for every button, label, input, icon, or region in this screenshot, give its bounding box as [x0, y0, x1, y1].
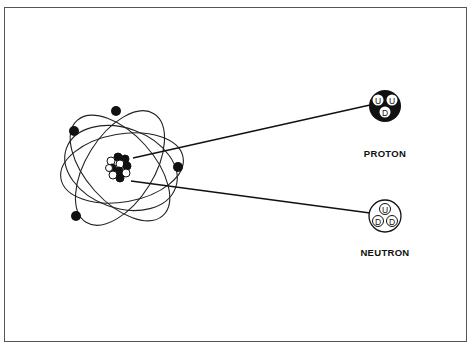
connector-proton: [133, 105, 370, 158]
neutron-quark-2: D: [375, 217, 381, 227]
electron: [71, 211, 81, 221]
proton-quark-3: D: [382, 108, 388, 118]
neutron-icon: U D D: [369, 200, 401, 232]
proton-quark-2: U: [389, 96, 395, 106]
electron: [111, 106, 121, 116]
neutron-quark-3: D: [389, 217, 395, 227]
electron: [173, 162, 183, 172]
neutron-label: NEUTRON: [355, 247, 415, 258]
proton-quark-1: U: [375, 96, 381, 106]
atom-diagram: U U D U D D: [0, 0, 475, 350]
neutron-quark-1: U: [382, 205, 388, 215]
proton-icon: U U D: [369, 90, 401, 122]
connector-neutron: [131, 181, 370, 213]
nucleus: [106, 153, 132, 182]
electron: [69, 126, 79, 136]
proton-label: PROTON: [355, 148, 415, 159]
